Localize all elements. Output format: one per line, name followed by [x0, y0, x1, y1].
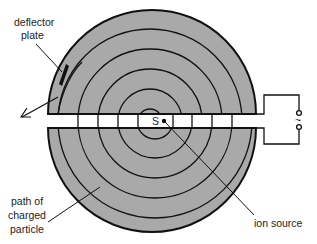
ac-symbol: ~	[295, 114, 301, 126]
source-marker-label: S	[152, 115, 159, 127]
deflector-label-line2: plate	[21, 29, 44, 41]
path-label-line2: charged	[8, 209, 46, 221]
path-label-line1: path of	[11, 195, 43, 207]
lower-dee	[48, 128, 256, 232]
ion-source-label: ion source	[254, 217, 303, 229]
path-label-line3: particle	[10, 223, 44, 235]
deflector-label-line1: deflector	[14, 16, 55, 28]
cyclotron-diagram: ~ S deflector plate path of charged part…	[0, 0, 317, 244]
